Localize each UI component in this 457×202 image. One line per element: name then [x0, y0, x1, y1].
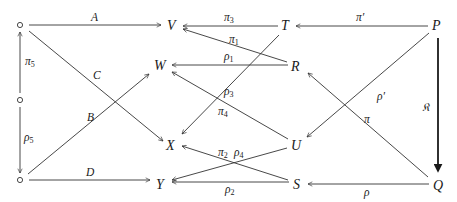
label-pi-prime: π′: [356, 11, 365, 23]
node-S: S: [293, 177, 300, 192]
node-T: T: [281, 18, 290, 33]
node-Q: Q: [433, 178, 443, 193]
node-W: W: [154, 58, 167, 73]
node-R: R: [290, 59, 300, 74]
label-rho4: ρ4: [233, 146, 244, 160]
label-rho-prime: ρ′: [376, 90, 386, 103]
origin-node-top: [17, 22, 22, 27]
label-rho5: ρ5: [23, 131, 34, 145]
node-P: P: [431, 18, 441, 33]
edge-rho4: [172, 148, 287, 180]
label-rho: ρ: [363, 186, 370, 199]
edge-B: [28, 74, 149, 174]
label-pi3: π3: [224, 11, 234, 25]
label-D: D: [85, 166, 95, 178]
label-pi4: π4: [218, 105, 228, 119]
edge-pi4: [172, 72, 288, 139]
origin-node-bottom: [17, 177, 22, 182]
label-rho1: ρ1: [223, 50, 234, 64]
label-A: A: [90, 11, 99, 23]
edge-pi: [308, 73, 428, 177]
edge-rho3: [182, 35, 279, 134]
label-pi1: π1: [229, 33, 239, 47]
label-B: B: [87, 111, 94, 123]
node-X: X: [165, 138, 175, 153]
edge-C: [29, 31, 163, 141]
node-Y: Y: [156, 177, 166, 192]
label-pi: π: [364, 113, 371, 125]
label-rho3: ρ3: [223, 85, 234, 99]
label-pi2: π2: [218, 146, 228, 160]
label-C: C: [93, 69, 101, 81]
node-U: U: [291, 138, 302, 153]
label-pi5: π5: [25, 55, 35, 69]
origin-node-middle: [17, 97, 22, 102]
label-frak-K: 𝔎: [422, 101, 431, 113]
commutative-diagram: V W X Y T R U S P Q A C B D π5 ρ5 π3 π1 …: [0, 0, 457, 202]
node-V: V: [167, 18, 177, 33]
label-rho2: ρ2: [224, 183, 235, 197]
